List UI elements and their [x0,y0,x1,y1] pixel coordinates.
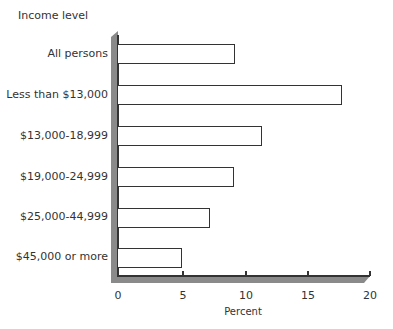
bar [118,85,342,105]
category-label: $25,000-44,999 [20,210,108,223]
bar [118,126,262,146]
bar [118,208,210,228]
x-axis-line [117,275,370,277]
category-label: $45,000 or more [16,250,108,263]
bar [118,248,182,268]
bar [118,167,234,187]
x-axis-title: Percent [224,306,262,317]
x-axis-band [111,276,364,283]
category-label: $19,000-24,999 [20,170,108,183]
x-tick [307,271,309,276]
x-axis-band-bevel [364,276,370,283]
y-axis-line [117,35,119,276]
x-tick-label: 0 [115,289,122,302]
category-label: $13,000-18,999 [20,129,108,142]
y-axis-title: Income level [18,9,88,22]
category-label: All persons [47,47,108,60]
x-tick-label: 10 [239,289,253,302]
category-label: Less than $13,000 [6,88,108,101]
x-tick [369,271,371,276]
x-tick-label: 5 [180,289,187,302]
x-tick-label: 15 [301,289,315,302]
x-tick [117,271,119,276]
x-tick [245,271,247,276]
x-tick [182,271,184,276]
x-tick-label: 20 [363,289,377,302]
bar [118,44,235,64]
